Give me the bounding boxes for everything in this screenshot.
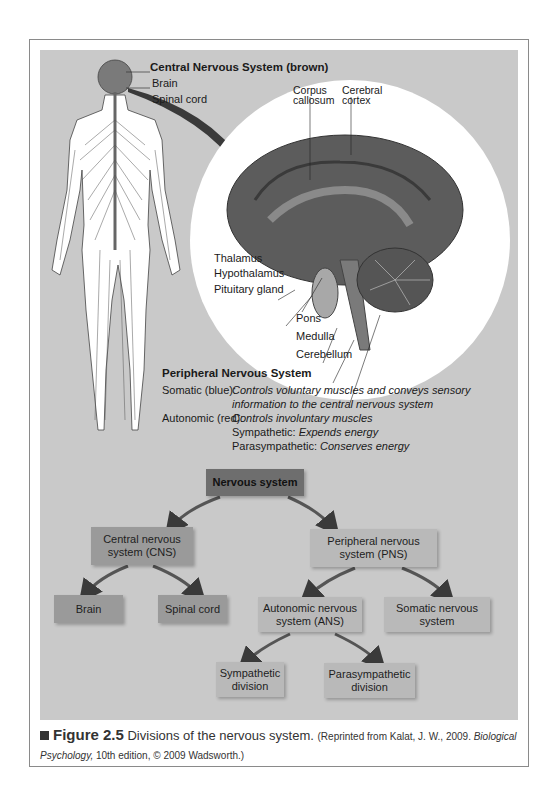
- box-brain: Brain: [54, 595, 123, 623]
- box-nervous-system: Nervous system: [206, 469, 304, 496]
- box-pns: Peripheral nervous system (PNS): [310, 529, 437, 567]
- box-ans: Autonomic nervous system (ANS): [258, 597, 362, 632]
- figure-caption: Figure 2.5 Divisions of the nervous syst…: [40, 726, 520, 765]
- figure-number: Figure 2.5: [53, 726, 124, 743]
- box-parasympathetic: Parasympathetic division: [324, 663, 415, 698]
- box-spinal-cord: Spinal cord: [158, 595, 227, 623]
- box-somatic: Somatic nervous system: [384, 597, 490, 632]
- box-sympathetic: Sympathetic division: [216, 662, 284, 697]
- caption-square-icon: [40, 731, 49, 740]
- box-cns: Central nervous system (CNS): [91, 527, 193, 565]
- figure-title: Divisions of the nervous system.: [127, 728, 313, 743]
